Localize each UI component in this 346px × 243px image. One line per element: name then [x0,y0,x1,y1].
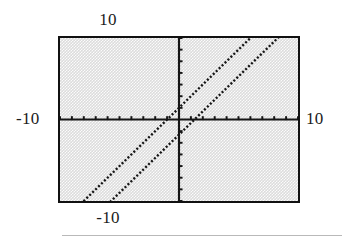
axis-label-bottom: -10 [0,209,281,226]
plot-frame [58,36,300,203]
bottom-divider [62,235,342,236]
plot-figure: 10 -10 10 -10 [0,0,346,243]
axis-label-top: 10 [0,11,281,28]
plot-canvas [60,38,298,201]
axis-label-left: -10 [16,110,40,127]
axis-label-right: 10 [306,110,324,127]
axes-group [60,38,298,201]
plot-area [60,38,298,201]
